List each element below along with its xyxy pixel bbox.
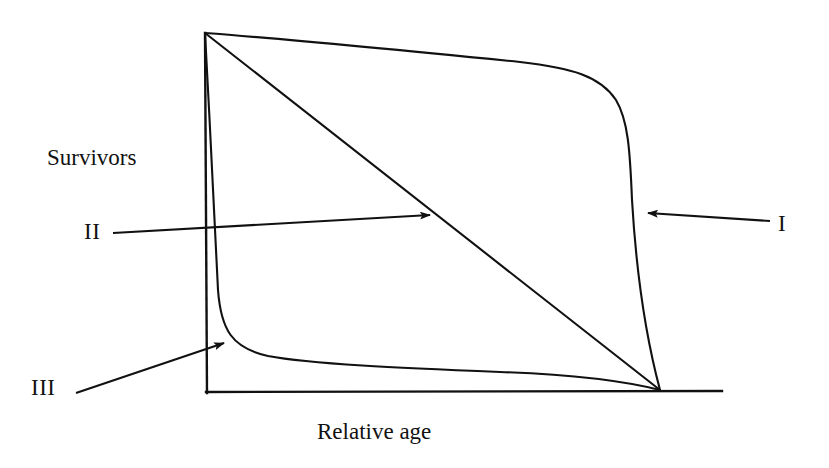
callout-arrow-type-3 — [76, 343, 224, 393]
y-axis-line — [205, 33, 207, 393]
curve-label-type-3: III — [31, 376, 55, 399]
x-axis-label: Relative age — [317, 420, 431, 443]
callout-arrow-type-2 — [113, 215, 430, 233]
y-axis-label: Survivors — [47, 146, 136, 169]
curve-type-2 — [205, 33, 660, 390]
curve-label-type-1: I — [778, 212, 786, 235]
diagram-canvas — [0, 0, 829, 468]
axis-lines — [205, 33, 722, 393]
survivorship-curves-figure: Survivors Relative age I II III — [0, 0, 829, 468]
callout-arrow-type-1 — [648, 213, 770, 221]
x-axis-line — [206, 391, 722, 392]
curve-label-type-2: II — [84, 220, 100, 243]
